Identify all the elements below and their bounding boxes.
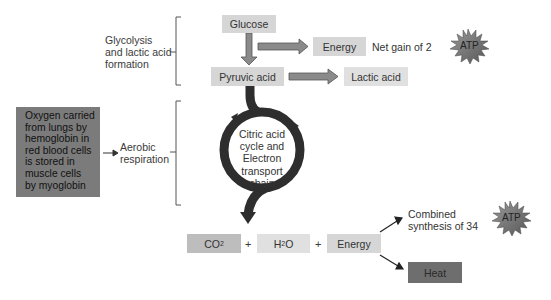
energy-box-top: Energy bbox=[313, 37, 366, 56]
aerobic-label-line: Aerobic bbox=[120, 141, 169, 153]
oxygen-note-box: Oxygen carried from lungs by hemoglobin … bbox=[16, 107, 100, 197]
glucose-box: Glucose bbox=[222, 15, 276, 33]
to-energy-arrow bbox=[258, 39, 308, 54]
energy-box-bottom: Energy bbox=[327, 234, 381, 253]
oxygen-note-line: red blood cells bbox=[25, 145, 100, 157]
cycle-label-line: transport bbox=[228, 165, 296, 177]
net-gain-label: Net gain of 2 bbox=[372, 41, 432, 53]
cycle-label-line: cycle and bbox=[228, 140, 296, 152]
cycle-label-line: Electron bbox=[228, 152, 296, 164]
plus-sign: + bbox=[245, 238, 251, 250]
oxygen-note-line: Oxygen carried bbox=[25, 110, 100, 122]
aerobic-label: Aerobic respiration bbox=[120, 141, 169, 165]
h2o-text: H bbox=[274, 238, 282, 250]
plus-sign: + bbox=[315, 238, 321, 250]
co2-text: CO bbox=[204, 238, 220, 250]
energy-metabolism-diagram: Glycolysis and lactic acid formation Aer… bbox=[0, 0, 551, 300]
cycle-label-line: chain bbox=[228, 177, 296, 189]
oxygen-note-line: hemoglobin in bbox=[25, 133, 100, 145]
co2-subscript: 2 bbox=[220, 240, 224, 247]
combined-synthesis-label: Combined synthesis of 34 bbox=[408, 208, 478, 232]
cycle-label: Citric acid cycle and Electron transport… bbox=[228, 128, 296, 189]
oxygen-note-line: by myoglobin bbox=[25, 180, 100, 192]
h2o-box: H2O bbox=[257, 234, 310, 253]
atp-label-bottom: ATP bbox=[502, 212, 521, 223]
heat-box: Heat bbox=[408, 262, 462, 283]
glucose-to-pyruvic-arrow bbox=[241, 33, 257, 65]
pyruvic-acid-box: Pyruvic acid bbox=[211, 67, 284, 86]
glycolysis-label-line: and lactic acid bbox=[105, 46, 172, 58]
aerobic-bracket bbox=[170, 101, 181, 205]
combined-line: Combined bbox=[408, 208, 478, 220]
lactic-acid-box: Lactic acid bbox=[344, 67, 408, 86]
aerobic-label-line: respiration bbox=[120, 153, 169, 165]
cycle-label-line: Citric acid bbox=[228, 128, 296, 140]
oxygen-note-line: muscle cells bbox=[25, 168, 100, 180]
glycolysis-label: Glycolysis and lactic acid formation bbox=[105, 34, 172, 70]
oxygen-note-line: from lungs by bbox=[25, 122, 100, 134]
glycolysis-label-line: Glycolysis bbox=[105, 34, 172, 46]
to-heat-arrow bbox=[380, 255, 403, 269]
oxygen-to-aerobic-arrow bbox=[103, 150, 118, 156]
cycle-down-arrowhead bbox=[240, 212, 256, 224]
glycolysis-label-line: formation bbox=[105, 58, 172, 70]
to-combined-arrow bbox=[380, 217, 402, 232]
co2-box: CO2 bbox=[187, 234, 241, 253]
oxygen-note-line: is stored in bbox=[25, 156, 100, 168]
h2o-text: O bbox=[285, 238, 293, 250]
atp-label-top: ATP bbox=[460, 40, 479, 51]
combined-line: synthesis of 34 bbox=[408, 220, 478, 232]
to-lactic-arrow bbox=[289, 69, 338, 84]
